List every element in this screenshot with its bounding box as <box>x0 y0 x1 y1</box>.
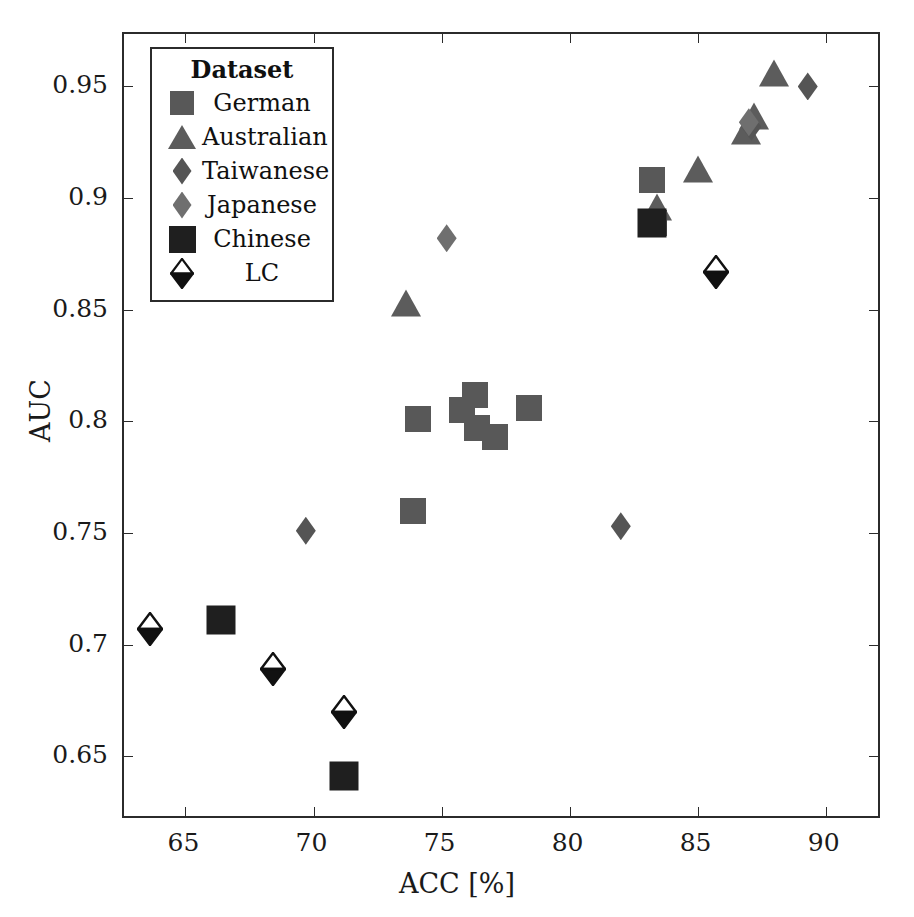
legend-marker-australian-icon <box>162 121 202 153</box>
y-tick-mark-right <box>869 198 878 199</box>
scatter-figure: ACC [%] AUC Dataset GermanAustralianTaiw… <box>0 0 914 917</box>
y-tick-mark <box>124 756 133 757</box>
y-tick-mark <box>124 645 133 646</box>
data-point-chinese <box>330 762 359 791</box>
y-tick-label: 0.7 <box>0 628 108 657</box>
x-tick-mark <box>826 807 827 816</box>
y-tick-mark-right <box>869 645 878 646</box>
y-tick-mark-right <box>869 421 878 422</box>
legend-glyph <box>169 226 196 253</box>
data-point-chinese <box>207 606 236 635</box>
y-tick-label: 0.95 <box>0 70 108 99</box>
data-point-australian <box>683 156 713 183</box>
data-point-german <box>639 167 665 193</box>
y-tick-label: 0.9 <box>0 182 108 211</box>
x-tick-mark-top <box>442 34 443 43</box>
y-tick-mark <box>124 310 133 311</box>
y-tick-mark <box>124 198 133 199</box>
legend-glyph <box>173 158 192 185</box>
x-tick-mark <box>185 807 186 816</box>
y-tick-mark <box>124 533 133 534</box>
x-tick-label: 70 <box>296 828 328 857</box>
legend-marker-german-icon <box>162 87 202 119</box>
x-tick-mark-top <box>698 34 699 43</box>
y-tick-mark-right <box>869 756 878 757</box>
data-point-german <box>405 406 431 432</box>
data-point-chinese <box>637 208 666 237</box>
legend-entry-german: German <box>162 86 322 120</box>
legend-entry-australian: Australian <box>162 120 322 154</box>
x-tick-mark <box>314 807 315 816</box>
legend-label: German <box>202 89 322 117</box>
data-point-german <box>462 382 488 408</box>
legend-entry-lc: LC <box>162 256 322 290</box>
x-tick-mark-top <box>570 34 571 43</box>
data-point-german <box>482 424 508 450</box>
data-point-lc <box>137 612 163 646</box>
legend-glyph <box>170 258 194 289</box>
legend-glyph <box>173 192 192 219</box>
data-point-german <box>516 395 542 421</box>
x-tick-label: 75 <box>424 828 456 857</box>
data-point-australian <box>759 60 789 87</box>
data-point-lc <box>331 695 357 729</box>
legend-label: LC <box>202 259 322 287</box>
x-tick-label: 85 <box>680 828 712 857</box>
y-tick-mark <box>124 86 133 87</box>
y-tick-label: 0.75 <box>0 517 108 546</box>
y-tick-mark <box>124 421 133 422</box>
data-point-australian <box>391 290 421 317</box>
legend-label: Taiwanese <box>202 157 329 185</box>
x-tick-label: 90 <box>808 828 840 857</box>
y-tick-mark-right <box>869 86 878 87</box>
legend-marker-taiwanese-icon <box>162 155 202 187</box>
data-point-lc <box>703 255 729 289</box>
y-tick-mark-right <box>869 533 878 534</box>
x-tick-mark <box>698 807 699 816</box>
data-point-german <box>400 498 426 524</box>
x-tick-mark <box>570 807 571 816</box>
legend: Dataset GermanAustralianTaiwaneseJapanes… <box>150 47 334 302</box>
y-tick-label: 0.65 <box>0 740 108 769</box>
y-tick-label: 0.8 <box>0 405 108 434</box>
data-point-japanese <box>437 224 457 252</box>
legend-label: Chinese <box>202 225 322 253</box>
legend-label: Japanese <box>202 191 322 219</box>
legend-glyph <box>170 91 194 115</box>
x-tick-mark <box>442 807 443 816</box>
x-tick-label: 80 <box>552 828 584 857</box>
legend-marker-chinese-icon <box>162 223 202 255</box>
x-tick-label: 65 <box>168 828 200 857</box>
y-tick-mark-right <box>869 310 878 311</box>
legend-label: Australian <box>202 123 328 151</box>
data-point-taiwanese <box>611 512 631 540</box>
legend-marker-japanese-icon <box>162 189 202 221</box>
legend-marker-lc-icon <box>162 257 202 289</box>
data-point-taiwanese <box>296 517 316 545</box>
data-point-taiwanese <box>798 72 818 100</box>
legend-entry-japanese: Japanese <box>162 188 322 222</box>
legend-title: Dataset <box>162 55 322 84</box>
legend-glyph <box>168 125 196 149</box>
legend-entry-taiwanese: Taiwanese <box>162 154 322 188</box>
y-tick-label: 0.85 <box>0 293 108 322</box>
x-axis-label: ACC [%] <box>0 868 914 899</box>
data-point-lc <box>260 652 286 686</box>
x-tick-mark-top <box>185 34 186 43</box>
legend-entry-chinese: Chinese <box>162 222 322 256</box>
x-tick-mark-top <box>314 34 315 43</box>
x-tick-mark-top <box>826 34 827 43</box>
